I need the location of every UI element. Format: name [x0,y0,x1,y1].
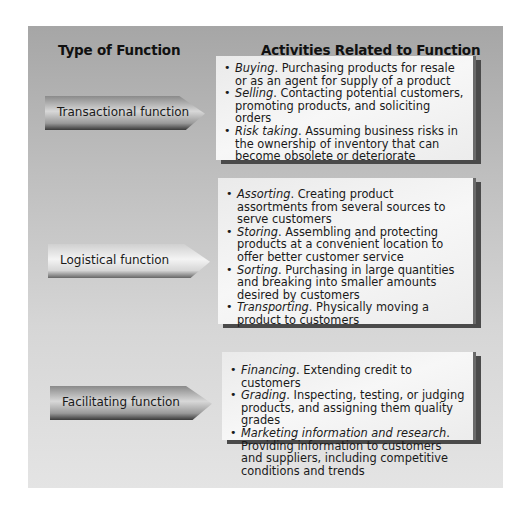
activity-item: Financing. Extending credit to customers [228,364,465,389]
activity-item: Grading. Inspecting, testing, or judging… [228,389,465,427]
activity-item: Transporting. Physically moving a produc… [224,301,465,326]
logistical-activities-box: Assorting. Creating product assortments … [218,178,476,324]
activity-item: Risk taking. Assuming business risks in … [222,125,465,163]
activity-item: Assorting. Creating product assortments … [224,188,465,226]
activity-item: Selling. Contacting potential customers,… [222,87,465,125]
type-of-function-header: Type of Function [58,42,180,58]
logistical-function-arrow: Logistical function [48,244,210,278]
facilitating-activities-box: Financing. Extending credit to customers… [222,352,476,440]
functions-panel: Type of Function Activities Related to F… [28,26,503,488]
facilitating-function-arrow: Facilitating function [50,386,212,420]
activity-item: Storing. Assembling and protecting produ… [224,226,465,264]
function-label: Logistical function [60,253,169,267]
activity-item: Sorting. Purchasing in large quantities … [224,264,465,302]
activity-item: Marketing information and research. Prov… [228,427,465,477]
activity-item: Buying. Purchasing products for resale o… [222,62,465,87]
transactional-function-arrow: Transactional function [45,96,205,130]
transactional-activities-box: Buying. Purchasing products for resale o… [216,56,476,160]
function-label: Facilitating function [62,395,180,409]
function-label: Transactional function [57,105,189,119]
